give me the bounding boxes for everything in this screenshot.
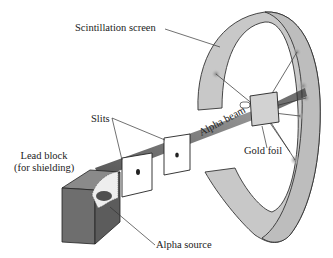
lead-block-label-line2: (for shielding) (14, 162, 74, 174)
lead-block-label-line1: Lead block (14, 150, 74, 162)
alpha-source-label: Alpha source (156, 239, 212, 251)
experiment-diagram (0, 0, 333, 258)
slit-2 (164, 134, 190, 175)
lead-block (62, 170, 120, 244)
slit-1 (122, 153, 152, 197)
gold-foil-label: Gold foil (244, 145, 282, 157)
scintillation-screen-label: Scintillation screen (75, 22, 156, 34)
slits-label: Slits (91, 113, 110, 125)
lead-block-label: Lead block (for shielding) (14, 150, 74, 173)
